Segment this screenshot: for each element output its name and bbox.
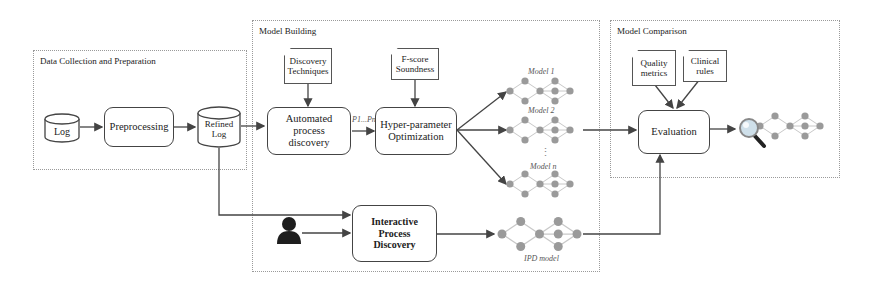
evaluation-label: Evaluation [651, 126, 697, 138]
model-dots: ⋮ [540, 146, 551, 159]
automated-process-discovery-label: Automated process discovery [279, 113, 339, 149]
log-datastore: Log [44, 113, 80, 143]
model-1-label: Model 1 [528, 67, 554, 76]
quality-metrics-doc: Quality metrics [632, 50, 676, 86]
interactive-process-discovery-box: Interactive Process Discovery [352, 205, 437, 262]
discovery-techniques-doc: Discovery Techniques [284, 48, 332, 84]
discovery-techniques-label: Discovery Techniques [285, 56, 331, 77]
clinical-rules-doc: Clinical rules [683, 50, 727, 82]
hyper-parameter-optimization-box: Hyper-parameter Optimization [375, 107, 457, 155]
clinical-rules-label: Clinical rules [687, 56, 723, 77]
user-icon [277, 217, 301, 244]
preprocessing-box: Preprocessing [104, 107, 174, 147]
model-2-graph [506, 116, 573, 143]
fscore-soundness-label: F-score Soundness [395, 54, 435, 75]
hyper-parameter-optimization-label: Hyper-parameter Optimization [376, 119, 456, 143]
ipd-model-label: IPD model [524, 254, 559, 263]
interactive-process-discovery-label: Interactive Process Discovery [365, 216, 425, 251]
evaluation-box: Evaluation [638, 110, 710, 154]
refined-log-datastore: Refined Log [197, 106, 241, 148]
result-model-graph [756, 112, 823, 139]
params-edge-label: P1...Pn [352, 115, 376, 124]
refined-log-label: Refined Log [199, 120, 239, 140]
model-n-graph [506, 170, 573, 197]
model-2-label: Model 2 [528, 106, 554, 115]
automated-process-discovery-box: Automated process discovery [267, 107, 351, 155]
quality-metrics-label: Quality metrics [636, 58, 672, 79]
ipd-model-graph [498, 217, 582, 251]
log-label: Log [54, 126, 70, 137]
model-1-graph [506, 77, 573, 104]
preprocessing-label: Preprocessing [110, 121, 169, 133]
model-n-label: Model n [530, 162, 556, 171]
fscore-soundness-doc: F-score Soundness [391, 48, 439, 80]
